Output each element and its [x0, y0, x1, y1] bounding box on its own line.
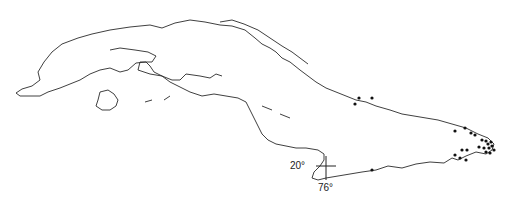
record-point [357, 96, 360, 99]
map-canvas: 20° 76° [0, 0, 523, 208]
isla-de-la-juventud [96, 90, 118, 110]
cuba-map [0, 0, 523, 208]
record-point [477, 145, 480, 148]
record-point [469, 131, 472, 134]
record-point [488, 151, 491, 154]
record-point [453, 153, 456, 156]
record-point [489, 140, 492, 143]
record-point [458, 156, 461, 159]
record-point [484, 139, 487, 142]
record-point [460, 148, 463, 151]
southern-cays [145, 96, 290, 118]
record-point [490, 144, 493, 147]
record-point [482, 146, 485, 149]
record-point [370, 168, 373, 171]
inner-coastline [110, 48, 222, 80]
record-point [487, 146, 490, 149]
record-point [453, 129, 456, 132]
record-point [486, 142, 489, 145]
cuba-coastline [16, 20, 494, 180]
record-point [464, 158, 467, 161]
record-point [465, 148, 468, 151]
record-point [473, 133, 476, 136]
record-point [492, 148, 495, 151]
record-point [480, 138, 483, 141]
longitude-label: 76° [318, 182, 333, 193]
record-point [370, 96, 373, 99]
record-point [463, 126, 466, 129]
distribution-points [353, 96, 495, 171]
record-point [353, 102, 356, 105]
latitude-label: 20° [290, 160, 305, 171]
record-point [484, 150, 487, 153]
